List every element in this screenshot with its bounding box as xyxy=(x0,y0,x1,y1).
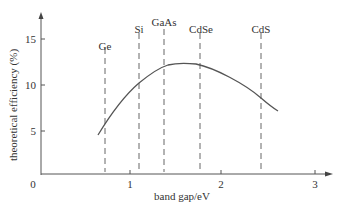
y-tick-15: 15 xyxy=(25,33,37,45)
material-markers xyxy=(105,29,261,172)
si-label: Si xyxy=(134,23,143,35)
origin-label: 0 xyxy=(30,178,36,190)
ge-label: Ge xyxy=(99,40,112,52)
efficiency-curve xyxy=(98,63,278,135)
y-tick-10: 10 xyxy=(25,79,37,91)
y-tick-5: 5 xyxy=(31,125,37,137)
cdse-label: CdSe xyxy=(189,23,213,35)
x-tick-2: 2 xyxy=(218,178,224,190)
x-axis xyxy=(41,170,333,177)
gaas-label: GaAs xyxy=(151,16,176,28)
y-axis xyxy=(39,12,46,175)
cds-label: CdS xyxy=(252,23,271,35)
x-axis-label: band gap/eV xyxy=(154,190,210,202)
x-tick-1: 1 xyxy=(127,178,133,190)
y-axis-arrow-icon xyxy=(39,12,44,19)
x-axis-arrow-icon xyxy=(325,172,333,177)
x-tick-3: 3 xyxy=(312,178,318,190)
y-axis-label: theoretical efficiency (%) xyxy=(7,49,20,162)
chart: 0 1 2 3 5 10 15 band gap/eV theoretical … xyxy=(0,0,347,213)
